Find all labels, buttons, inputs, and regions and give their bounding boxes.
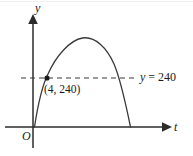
point-coordinate-label: (4, 240) xyxy=(44,84,80,96)
t-axis-label: t xyxy=(174,121,177,133)
y-axis xyxy=(28,14,38,148)
level-label-value: 240 xyxy=(158,70,176,84)
y-axis-label: y xyxy=(35,2,40,14)
level-label-equals: = xyxy=(148,70,155,84)
level-line-label: y=240 xyxy=(140,71,176,83)
point-marker-4-240 xyxy=(44,75,49,80)
t-axis-arrowhead xyxy=(162,122,172,132)
level-label-variable: y xyxy=(140,70,145,84)
y-axis-arrowhead xyxy=(28,14,38,24)
origin-label: O xyxy=(22,130,31,142)
parabola-figure: y t O (4, 240) y=240 xyxy=(0,0,193,156)
